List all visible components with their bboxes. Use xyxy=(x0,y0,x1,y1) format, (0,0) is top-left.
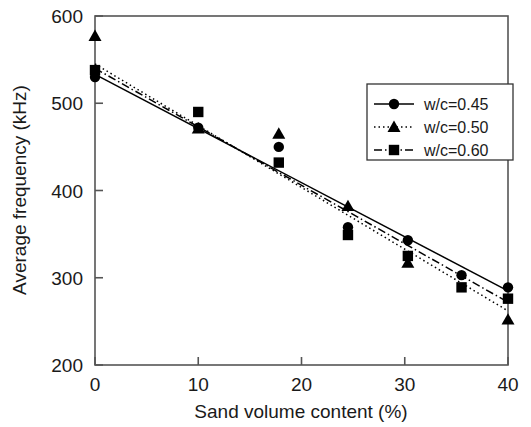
data-point-square-icon xyxy=(90,65,100,75)
data-point-triangle-icon xyxy=(502,313,515,324)
data-point-square-icon xyxy=(403,251,413,261)
chart-figure: 200300400500600 010203040 Sand volume co… xyxy=(0,0,531,427)
plot-frame xyxy=(95,16,508,365)
x-axis-ticks xyxy=(95,357,508,365)
legend-marker-square-icon xyxy=(389,145,399,155)
data-point-triangle-icon xyxy=(272,127,285,138)
x-tick-label: 20 xyxy=(291,374,312,395)
x-tick-label: 0 xyxy=(90,374,101,395)
x-tick-label: 30 xyxy=(394,374,415,395)
legend-label-0: w/c=0.45 xyxy=(423,96,489,113)
x-tick-label: 40 xyxy=(497,374,518,395)
scatter-plot: 200300400500600 010203040 Sand volume co… xyxy=(0,0,531,427)
y-tick-label: 200 xyxy=(51,355,83,376)
data-point-triangle-icon xyxy=(89,30,102,41)
y-axis-tick-labels: 200300400500600 xyxy=(51,6,83,376)
legend[interactable]: w/c=0.45w/c=0.50w/c=0.60 xyxy=(367,84,513,160)
y-axis-title: Average frequency (kHz) xyxy=(9,85,30,295)
data-point-square-icon xyxy=(503,293,513,303)
data-point-square-icon xyxy=(343,230,353,240)
legend-label-1: w/c=0.50 xyxy=(423,119,489,136)
data-point-circle-icon xyxy=(503,282,513,292)
data-point-circle-icon xyxy=(403,235,413,245)
data-point-square-icon xyxy=(456,282,466,292)
x-axis-tick-labels: 010203040 xyxy=(90,374,519,395)
data-point-square-icon xyxy=(193,107,203,117)
legend-marker-circle-icon xyxy=(389,99,399,109)
x-axis-title: Sand volume content (%) xyxy=(194,401,407,422)
series-data-markers xyxy=(89,30,515,325)
data-point-circle-icon xyxy=(456,270,466,280)
data-point-square-icon xyxy=(274,157,284,167)
y-tick-label: 600 xyxy=(51,6,83,27)
x-tick-label: 10 xyxy=(188,374,209,395)
y-tick-label: 500 xyxy=(51,93,83,114)
y-tick-label: 300 xyxy=(51,268,83,289)
y-tick-label: 400 xyxy=(51,181,83,202)
data-point-circle-icon xyxy=(274,142,284,152)
legend-label-2: w/c=0.60 xyxy=(423,142,489,159)
